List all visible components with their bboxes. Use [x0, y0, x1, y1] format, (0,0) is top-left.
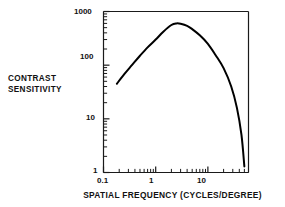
x-tick-label-1: 1	[149, 176, 153, 185]
x-axis-label: SPATIAL FREQUENCY (CYCLES/DEGREE)	[60, 190, 285, 200]
y-tick-label-1000: 1000	[74, 7, 92, 16]
y-tick-label-1: 1	[93, 166, 97, 175]
x-tick-label-0-1: 0.1	[97, 176, 108, 185]
chart-background	[0, 0, 285, 207]
y-axis-label-line1: CONTRAST	[8, 74, 72, 85]
y-axis-label: CONTRAST SENSITIVITY	[8, 74, 72, 95]
x-tick-label-10: 10	[197, 176, 206, 185]
contrast-sensitivity-chart	[0, 0, 285, 207]
y-axis-label-line2: SENSITIVITY	[8, 85, 72, 96]
y-tick-label-10: 10	[86, 113, 95, 122]
y-tick-label-100: 100	[80, 52, 93, 61]
